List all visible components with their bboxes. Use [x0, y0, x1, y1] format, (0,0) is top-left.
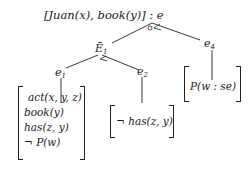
condition-line: ¬ P(w)	[24, 135, 60, 150]
edge-E1-e1	[66, 55, 98, 68]
left-bracket	[110, 105, 115, 138]
drs-box-e2: ¬ has(z, y)	[110, 105, 174, 138]
node-E1-sub: 1	[103, 48, 107, 56]
drs-box-e4: P(w : se)	[184, 66, 241, 102]
node-E1: Ē1	[95, 43, 108, 56]
left-bracket	[18, 86, 23, 160]
root-label: [Juan(x), book(y)] : e	[44, 10, 164, 22]
circle-icon	[148, 26, 152, 30]
right-bracket	[236, 66, 241, 102]
edge-root-e4	[152, 23, 200, 40]
edge-E1-e2	[102, 55, 139, 70]
node-e1: e1	[55, 67, 66, 80]
node-e2: e2	[137, 66, 148, 79]
condition-line: P(w : se)	[190, 79, 236, 94]
node-e2-sub: 2	[144, 71, 148, 79]
condition-line: ¬ has(z, y)	[116, 114, 173, 129]
node-E1-label: Ē	[95, 42, 103, 55]
left-bracket	[184, 66, 189, 102]
node-e4-sub: 4	[211, 43, 215, 51]
node-e1-sub: 1	[62, 72, 66, 80]
node-e4: e4	[204, 38, 215, 51]
condition-line: has(z, y)	[24, 120, 69, 135]
condition-line: book(y)	[24, 105, 64, 120]
condition-line: act(x, y, z)	[28, 90, 82, 105]
edge-root-E1	[112, 23, 152, 43]
drs-box-e1: act(x, y, z) book(y) has(z, y) ¬ P(w)	[18, 86, 85, 160]
